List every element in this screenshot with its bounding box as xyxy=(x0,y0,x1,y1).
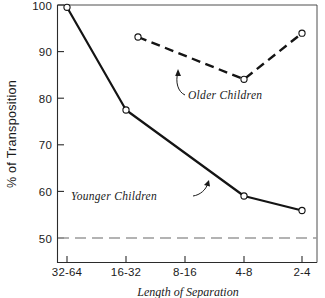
data-point xyxy=(241,76,247,82)
x-axis-ticks xyxy=(67,256,302,263)
axis-lines xyxy=(58,5,318,263)
y-tick-label: 90 xyxy=(39,46,52,58)
data-point xyxy=(299,30,305,36)
chart-canvas: 100 90 80 70 60 50 % of Transposition 32… xyxy=(0,0,325,298)
axis-frame-top-right xyxy=(58,5,318,263)
data-point xyxy=(135,34,141,40)
y-axis-title: % of Transposition xyxy=(5,80,19,188)
series-line-younger-children xyxy=(67,7,302,210)
x-axis-tick-labels: 32-64 16-32 8-16 4-8 2-4 xyxy=(52,266,311,278)
series-younger-children xyxy=(64,4,305,213)
older-children-arrowhead xyxy=(175,69,181,76)
y-axis-ticks xyxy=(58,5,65,238)
older-children-label: Older Children xyxy=(188,89,262,101)
data-point xyxy=(299,207,305,213)
series-line-older-children xyxy=(138,33,302,79)
x-axis-title: Length of Separation xyxy=(136,285,238,298)
x-tick-label: 16-32 xyxy=(111,266,141,278)
younger-children-arrowhead xyxy=(204,180,210,187)
data-point xyxy=(123,107,129,113)
y-tick-label: 70 xyxy=(39,139,52,151)
younger-children-annotation: Younger Children xyxy=(71,180,210,203)
younger-children-label: Younger Children xyxy=(71,190,157,203)
y-tick-label: 80 xyxy=(39,93,52,105)
data-point xyxy=(241,193,247,199)
chart-figure: 100 90 80 70 60 50 % of Transposition 32… xyxy=(0,0,325,298)
x-tick-label: 32-64 xyxy=(52,266,83,278)
x-tick-label: 4-8 xyxy=(235,266,252,278)
x-tick-label: 2-4 xyxy=(293,266,311,278)
data-point xyxy=(64,4,70,10)
y-tick-label: 50 xyxy=(39,233,52,245)
x-tick-label: 8-16 xyxy=(173,266,197,278)
y-tick-label: 100 xyxy=(32,0,52,12)
plot-frame xyxy=(58,5,318,263)
y-tick-label: 60 xyxy=(39,186,52,198)
series-older-children xyxy=(135,30,305,82)
y-axis-tick-labels: 100 90 80 70 60 50 xyxy=(32,0,52,245)
